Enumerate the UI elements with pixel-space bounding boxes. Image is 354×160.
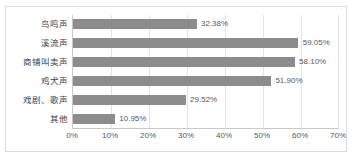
bar-row: 10.95% — [73, 110, 338, 129]
bar-value-label: 10.95% — [119, 111, 146, 127]
x-tick-label: 40% — [216, 131, 232, 140]
bar[interactable] — [73, 76, 271, 86]
x-tick-label: 70% — [330, 131, 346, 140]
bar-value-label: 29.52% — [190, 92, 217, 108]
bar[interactable] — [73, 57, 295, 67]
bar-value-label: 58.10% — [299, 54, 326, 70]
bar-value-label: 32.38% — [201, 16, 228, 32]
x-tick-label: 0% — [66, 131, 78, 140]
category-label: 鸟鸣声 — [41, 15, 68, 34]
bar-row: 29.52% — [73, 91, 338, 110]
category-label: 溪流声 — [41, 34, 68, 53]
category-label: 商铺叫卖声 — [23, 53, 68, 72]
category-label: 其他 — [50, 110, 68, 129]
bar[interactable] — [73, 19, 197, 29]
chart-frame: 鸟鸣声 溪流声 商铺叫卖声 鸡犬声 戏剧、歌声 其他 32.38% 59.05%… — [5, 6, 347, 152]
x-tick-label: 60% — [292, 131, 308, 140]
bar-value-label: 59.05% — [303, 35, 330, 51]
bar[interactable] — [73, 114, 115, 124]
category-axis-labels: 鸟鸣声 溪流声 商铺叫卖声 鸡犬声 戏剧、歌声 其他 — [6, 15, 68, 129]
x-tick-label: 30% — [178, 131, 194, 140]
x-tick-label: 20% — [140, 131, 156, 140]
x-tick-label: 10% — [102, 131, 118, 140]
bar[interactable] — [73, 95, 186, 105]
bar-row: 32.38% — [73, 15, 338, 34]
x-axis-labels: 0% 10% 20% 30% 40% 50% 60% 70% — [72, 131, 339, 147]
x-tick-label: 50% — [254, 131, 270, 140]
category-label: 戏剧、歌声 — [23, 91, 68, 110]
bar-row: 51.90% — [73, 72, 338, 91]
bar-value-label: 51.90% — [275, 73, 302, 89]
bar-row: 59.05% — [73, 34, 338, 53]
bar[interactable] — [73, 38, 298, 48]
category-label: 鸡犬声 — [41, 72, 68, 91]
bar-row: 58.10% — [73, 53, 338, 72]
plot-area: 32.38% 59.05% 58.10% 51.90% 29.52% 10.95… — [72, 15, 339, 129]
